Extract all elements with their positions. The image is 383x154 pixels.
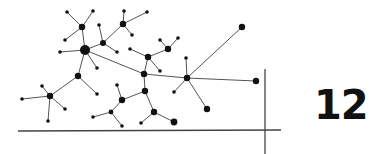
network-edge (187, 78, 256, 81)
network-node (145, 10, 149, 14)
network-node (165, 46, 171, 52)
network-node (239, 24, 245, 30)
network-node (158, 38, 162, 42)
network-diagram (0, 0, 383, 154)
network-edge (148, 49, 168, 57)
network-node (58, 50, 62, 54)
network-edge (103, 24, 123, 43)
network-node (204, 106, 210, 112)
network-node (142, 88, 148, 94)
network-edge (65, 27, 82, 40)
network-node (75, 73, 81, 79)
network-node (95, 66, 99, 70)
network-node (171, 119, 178, 126)
network-edge (85, 50, 144, 74)
network-edge (122, 91, 145, 100)
network-edge (123, 12, 147, 24)
network-node (122, 9, 126, 13)
network-node (115, 83, 119, 87)
network-node (63, 38, 67, 42)
network-nodes (20, 9, 259, 128)
network-node (176, 36, 180, 40)
network-node (130, 33, 134, 37)
network-node (109, 110, 114, 115)
network-node (100, 40, 106, 46)
network-edge (187, 27, 242, 78)
page-number: 12 (314, 83, 368, 127)
network-edge (111, 112, 122, 126)
network-node (128, 47, 132, 51)
network-edge (144, 74, 187, 78)
network-edge (48, 96, 50, 121)
network-node (145, 54, 151, 60)
network-edge (50, 76, 78, 96)
network-node (91, 115, 95, 119)
network-node (91, 9, 95, 13)
network-node (79, 24, 85, 30)
network-node (120, 21, 126, 27)
network-edge (93, 112, 111, 117)
network-node (65, 10, 69, 14)
network-edge (187, 78, 207, 109)
network-node (97, 23, 101, 27)
network-node (119, 97, 125, 103)
network-node (20, 97, 24, 101)
network-node (253, 78, 259, 84)
network-edge (22, 96, 50, 99)
network-node (172, 90, 176, 94)
network-node (158, 69, 162, 73)
network-node (184, 56, 188, 60)
network-node (120, 124, 124, 128)
network-node (80, 45, 90, 55)
network-node (40, 84, 44, 88)
horizontal-axis-line (18, 130, 281, 131)
network-edges (22, 11, 256, 126)
network-edge (145, 91, 154, 112)
network-node (63, 107, 67, 111)
network-node (139, 121, 143, 125)
network-node (115, 50, 119, 54)
network-node (141, 71, 147, 77)
network-node (47, 93, 53, 99)
network-node (46, 119, 50, 123)
axis-lines (18, 69, 281, 154)
network-node (151, 109, 157, 115)
network-node (95, 92, 99, 96)
network-node (184, 75, 190, 81)
network-edge (78, 76, 97, 94)
